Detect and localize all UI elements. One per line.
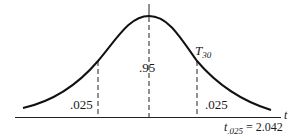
axis-label-t: t [284,109,287,121]
curve-label: T30 [195,44,211,60]
critical-value-label: t.025 = 2.042 [224,121,283,136]
right-tail-area-label: .025 [205,98,228,111]
t-distribution-diagram: .95 .025 .025 T30 t t.025 = 2.042 [0,0,299,138]
center-area-label: .95 [139,61,155,74]
left-tail-area-label: .025 [70,98,93,111]
